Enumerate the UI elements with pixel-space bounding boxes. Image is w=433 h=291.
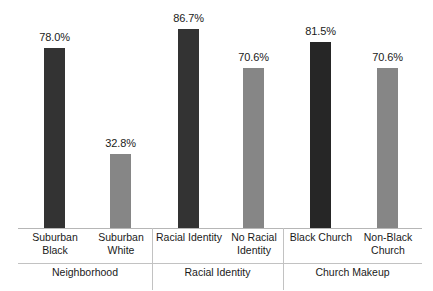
bar-value-non-black-church: 70.6%	[362, 51, 413, 63]
bar-chart: 78.0% 32.8% 86.7% 70.6% 81.5% 70.6% Subu…	[0, 0, 433, 291]
bar-suburban-black	[44, 48, 65, 228]
bar-black-church	[310, 42, 331, 228]
group-label-neighborhood: Neighborhood	[18, 266, 152, 279]
bar-value-black-church: 81.5%	[295, 25, 346, 37]
tick-label-no-racial-identity: No Racial Identity	[228, 231, 280, 257]
tick-label-non-black-church: Non-Black Church	[360, 231, 416, 257]
group-label-racial-identity: Racial Identity	[152, 266, 283, 279]
group-separator-2	[283, 228, 284, 290]
tick-label-racial-identity: Racial Identity	[154, 231, 224, 244]
label-divider	[18, 263, 422, 264]
tick-label-black-church: Black Church	[286, 231, 356, 244]
bar-value-no-racial-identity: 70.6%	[228, 51, 279, 63]
axis-baseline	[18, 228, 422, 229]
bar-value-suburban-black: 78.0%	[29, 31, 80, 43]
group-label-church-makeup: Church Makeup	[283, 266, 422, 279]
bar-racial-identity	[178, 29, 199, 228]
tick-label-suburban-black: Suburban Black	[25, 231, 85, 257]
bar-value-racial-identity: 86.7%	[163, 12, 214, 24]
group-separator-1	[152, 228, 153, 290]
bar-non-black-church	[377, 68, 398, 228]
bar-value-suburban-white: 32.8%	[95, 137, 146, 149]
plot-area: 78.0% 32.8% 86.7% 70.6% 81.5% 70.6%	[0, 0, 433, 228]
bar-no-racial-identity	[243, 68, 264, 228]
bar-suburban-white	[110, 154, 131, 228]
tick-label-suburban-white: Suburban White	[91, 231, 151, 257]
